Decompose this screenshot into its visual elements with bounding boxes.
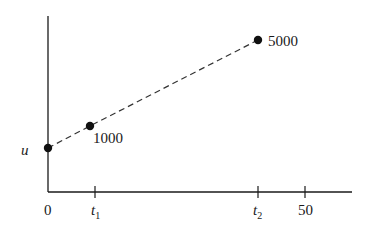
diagram-canvas xyxy=(0,0,371,226)
point-1000 xyxy=(86,122,94,130)
t1-subscript: 1 xyxy=(95,210,100,221)
point-label-1000: 1000 xyxy=(93,131,123,146)
point-label-5000: 5000 xyxy=(268,34,298,49)
x-tick-label-50: 50 xyxy=(298,203,313,218)
x-tick-label-0: 0 xyxy=(44,203,52,218)
x-tick-label-t2: t2 xyxy=(253,203,262,221)
point-u xyxy=(44,144,52,152)
point-5000 xyxy=(254,36,262,44)
t2-subscript: 2 xyxy=(257,210,262,221)
dashed-line xyxy=(48,40,258,148)
x-tick-label-t1: t1 xyxy=(91,203,100,221)
y-label-u: u xyxy=(21,143,29,158)
